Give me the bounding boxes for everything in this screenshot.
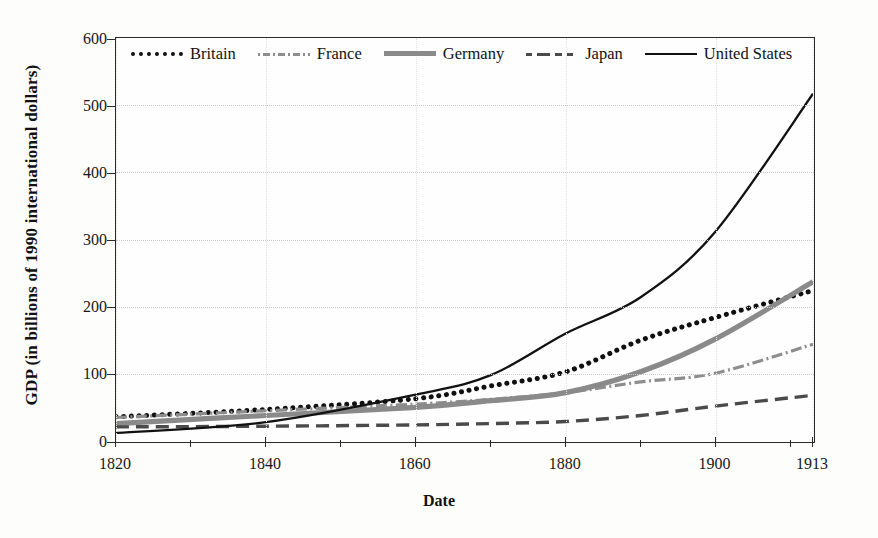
vertical-gridline xyxy=(566,38,567,442)
legend-swatch-icon xyxy=(258,49,310,59)
x-tick-label: 1820 xyxy=(99,455,131,473)
x-axis-title: Date xyxy=(0,492,878,510)
legend-swatch-icon xyxy=(131,49,183,59)
series-line-united-states xyxy=(116,94,813,433)
legend-label: United States xyxy=(704,44,792,64)
x-axis-ticks: 182018401860188019001913 xyxy=(115,447,815,477)
x-tick-mark-minor xyxy=(640,440,641,447)
legend-label: Germany xyxy=(443,44,504,64)
gridline xyxy=(116,172,814,173)
x-tick-label: 1860 xyxy=(399,455,431,473)
legend-item-united-states[interactable]: United States xyxy=(645,44,792,64)
legend-swatch-icon xyxy=(526,49,578,59)
series-line-britain xyxy=(116,291,813,417)
x-tick-mark xyxy=(115,437,116,447)
gridline xyxy=(116,307,814,308)
y-axis-title: GDP (in billions of 1990 international d… xyxy=(22,15,42,455)
legend-swatch-icon xyxy=(384,49,436,59)
x-tick-label: 1840 xyxy=(249,455,281,473)
y-axis-ticks: 0100200300400500600 xyxy=(45,37,107,443)
series-line-germany xyxy=(116,282,813,424)
x-tick-mark xyxy=(415,437,416,447)
legend-item-france[interactable]: France xyxy=(258,44,362,64)
x-tick-label: 1900 xyxy=(699,455,731,473)
y-tick-label: 100 xyxy=(51,365,107,383)
legend-label: Japan xyxy=(585,44,623,64)
legend-swatch-icon xyxy=(645,49,697,59)
y-tick-label: 400 xyxy=(51,164,107,182)
vertical-gridline xyxy=(116,38,117,442)
vertical-gridline xyxy=(716,38,717,442)
legend-item-britain[interactable]: Britain xyxy=(131,44,236,64)
legend-label: Britain xyxy=(190,44,236,64)
y-tick-label: 500 xyxy=(51,97,107,115)
plot-area xyxy=(115,37,815,443)
gridline xyxy=(116,240,814,241)
series-line-france xyxy=(116,344,813,417)
y-tick-label: 300 xyxy=(51,231,107,249)
gridline xyxy=(116,374,814,375)
y-tick-label: 0 xyxy=(51,433,107,451)
vertical-gridline xyxy=(416,38,417,442)
legend-item-germany[interactable]: Germany xyxy=(384,44,504,64)
x-tick-mark-minor xyxy=(190,440,191,447)
x-tick-mark xyxy=(265,437,266,447)
gridline xyxy=(116,105,814,106)
legend-item-japan[interactable]: Japan xyxy=(526,44,623,64)
x-tick-label: 1913 xyxy=(796,455,828,473)
vertical-gridline xyxy=(266,38,267,442)
x-tick-mark xyxy=(565,437,566,447)
vertical-gridline xyxy=(813,38,814,442)
x-tick-mark-minor xyxy=(490,440,491,447)
legend-label: France xyxy=(317,44,362,64)
x-tick-label: 1880 xyxy=(549,455,581,473)
x-tick-mark xyxy=(812,437,813,447)
x-tick-mark-minor xyxy=(340,440,341,447)
y-tick-label: 200 xyxy=(51,298,107,316)
chart-legend: BritainFranceGermanyJapanUnited States xyxy=(131,44,792,64)
x-tick-mark xyxy=(715,437,716,447)
chart-figure: GDP (in billions of 1990 international d… xyxy=(0,0,878,538)
y-tick-label: 600 xyxy=(51,30,107,48)
x-tick-mark-minor xyxy=(790,440,791,447)
